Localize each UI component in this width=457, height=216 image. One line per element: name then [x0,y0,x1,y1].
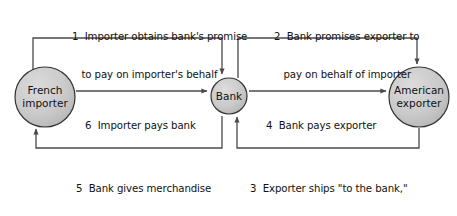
step-text-4-line1: Bank pays exporter [279,120,377,131]
node-french-importer-line1: French [28,84,63,96]
step-text-1-line2: to pay on importer's behalf [81,69,217,80]
step-label-2: 2 Bank promises exporter to pay on behal… [274,6,419,107]
step-label-1: 1 Importer obtains bank's promise to pay… [72,6,247,107]
step-text-3-line1: Exporter ships "to the bank," [263,183,408,194]
step-number-4: 4 [266,120,272,133]
step-number-3: 3 [250,183,256,196]
figure-caption-bar: FIGURE 11.3 [0,198,457,216]
step-text-6-line1: Importer pays bank [98,120,196,131]
step-text-2-line1: Bank promises exporter to [287,31,420,42]
node-french-importer-line2: importer [22,97,68,109]
step-number-1: 1 [72,31,78,44]
step-text-2-line2: pay on behalf of importer [283,69,411,80]
step-number-6: 6 [85,120,91,133]
step-label-4: 4 Bank pays exporter [266,95,376,158]
step-label-6: 6 Importer pays bank [85,95,196,158]
step-text-1-line1: Importer obtains bank's promise [85,31,248,42]
step-number-5: 5 [76,183,82,196]
step-number-2: 2 [274,31,280,44]
node-french-importer[interactable]: French importer [15,67,75,127]
step-text-5-line1: Bank gives merchandise [89,183,212,194]
figure-container: French importer Bank American exporter 1… [0,0,457,216]
